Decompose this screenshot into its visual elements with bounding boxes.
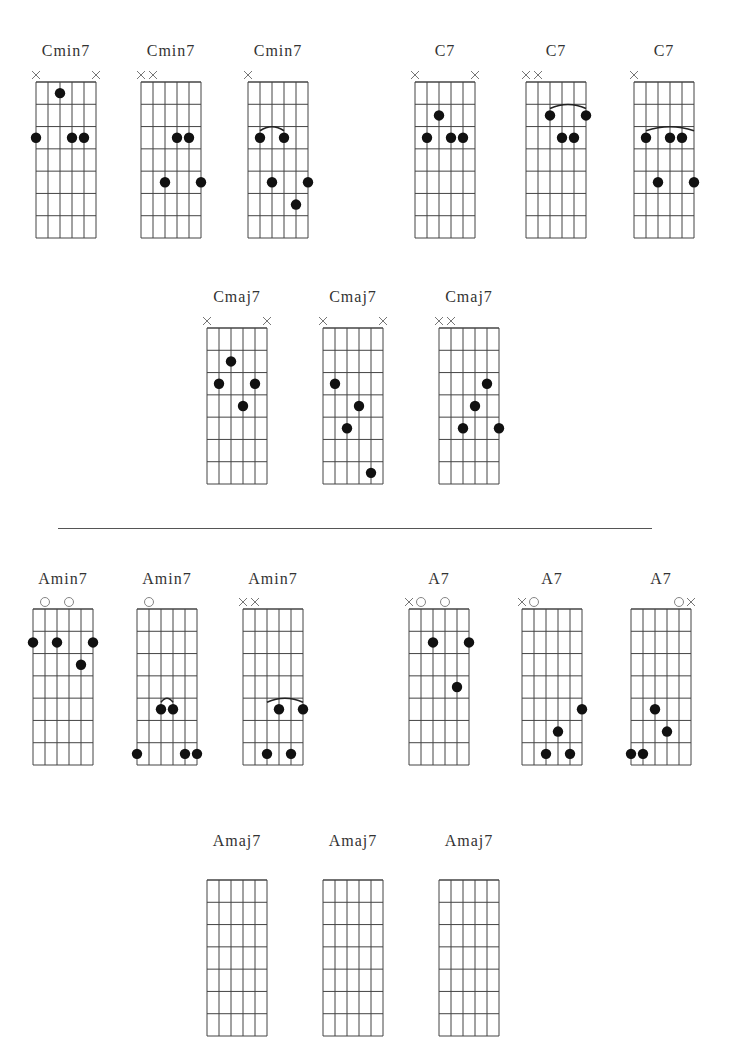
chord-diagram [512, 589, 592, 775]
finger-dot-icon [641, 133, 651, 143]
finger-dot-icon [79, 133, 89, 143]
finger-dot-icon [238, 401, 248, 411]
finger-dot-icon [274, 704, 284, 714]
finger-dot-icon [88, 637, 98, 647]
open-string-icon [441, 598, 450, 607]
barre-arc-icon [550, 104, 586, 108]
chord-diagram [131, 62, 211, 248]
muted-string-icon [687, 598, 695, 606]
chord-diagram [516, 62, 596, 248]
finger-dot-icon [553, 726, 563, 736]
muted-string-icon [263, 317, 271, 325]
muted-string-icon [203, 317, 211, 325]
muted-string-icon [534, 71, 542, 79]
chord-diagram [238, 62, 318, 248]
chord-diagram [429, 308, 509, 494]
muted-string-icon [522, 71, 530, 79]
muted-string-icon [319, 317, 327, 325]
muted-string-icon [244, 71, 252, 79]
finger-dot-icon [650, 704, 660, 714]
chord-diagram [621, 589, 701, 775]
finger-dot-icon [255, 133, 265, 143]
chord-diagram [313, 860, 393, 1041]
finger-dot-icon [303, 177, 313, 187]
finger-dot-icon [67, 133, 77, 143]
muted-string-icon [411, 71, 419, 79]
finger-dot-icon [470, 401, 480, 411]
finger-dot-icon [422, 133, 432, 143]
muted-string-icon [447, 317, 455, 325]
chord-diagram [197, 860, 277, 1041]
finger-dot-icon [226, 356, 236, 366]
chord-diagram [26, 62, 106, 248]
chord-name-label: A7 [399, 570, 479, 588]
finger-dot-icon [626, 749, 636, 759]
chord-diagram [197, 308, 277, 494]
finger-dot-icon [482, 379, 492, 389]
finger-dot-icon [577, 704, 587, 714]
finger-dot-icon [250, 379, 260, 389]
chord-name-label: A7 [512, 570, 592, 588]
finger-dot-icon [28, 637, 38, 647]
finger-dot-icon [286, 749, 296, 759]
finger-dot-icon [464, 637, 474, 647]
finger-dot-icon [458, 423, 468, 433]
finger-dot-icon [354, 401, 364, 411]
chord-name-label: Cmaj7 [429, 288, 509, 306]
open-string-icon [417, 598, 426, 607]
finger-dot-icon [452, 682, 462, 692]
barre-arc-icon [267, 698, 303, 702]
finger-dot-icon [156, 704, 166, 714]
muted-string-icon [149, 71, 157, 79]
chord-name-label: Amin7 [127, 570, 207, 588]
open-string-icon [530, 598, 539, 607]
chord-name-label: Cmin7 [238, 42, 318, 60]
muted-string-icon [471, 71, 479, 79]
chord-diagram [313, 308, 393, 494]
finger-dot-icon [132, 749, 142, 759]
chord-name-label: Cmaj7 [313, 288, 393, 306]
open-string-icon [41, 598, 50, 607]
finger-dot-icon [689, 177, 699, 187]
finger-dot-icon [214, 379, 224, 389]
finger-dot-icon [168, 704, 178, 714]
finger-dot-icon [180, 749, 190, 759]
open-string-icon [145, 598, 154, 607]
chord-diagram [23, 589, 103, 775]
finger-dot-icon [330, 379, 340, 389]
muted-string-icon [435, 317, 443, 325]
chord-name-label: Amaj7 [429, 832, 509, 850]
chord-name-label: Cmin7 [131, 42, 211, 60]
chord-name-label: C7 [624, 42, 704, 60]
finger-dot-icon [545, 110, 555, 120]
finger-dot-icon [262, 749, 272, 759]
finger-dot-icon [434, 110, 444, 120]
finger-dot-icon [291, 199, 301, 209]
section-divider [58, 528, 652, 529]
finger-dot-icon [196, 177, 206, 187]
finger-dot-icon [298, 704, 308, 714]
muted-string-icon [379, 317, 387, 325]
chord-diagram [405, 62, 485, 248]
finger-dot-icon [160, 177, 170, 187]
finger-dot-icon [565, 749, 575, 759]
muted-string-icon [32, 71, 40, 79]
chord-name-label: C7 [405, 42, 485, 60]
finger-dot-icon [192, 749, 202, 759]
muted-string-icon [251, 598, 259, 606]
finger-dot-icon [267, 177, 277, 187]
muted-string-icon [405, 598, 413, 606]
finger-dot-icon [569, 133, 579, 143]
muted-string-icon [92, 71, 100, 79]
finger-dot-icon [677, 133, 687, 143]
finger-dot-icon [541, 749, 551, 759]
open-string-icon [675, 598, 684, 607]
chord-diagram [233, 589, 313, 775]
finger-dot-icon [653, 177, 663, 187]
muted-string-icon [137, 71, 145, 79]
muted-string-icon [518, 598, 526, 606]
finger-dot-icon [76, 660, 86, 670]
chord-name-label: A7 [621, 570, 701, 588]
barre-arc-icon [161, 698, 173, 702]
finger-dot-icon [665, 133, 675, 143]
